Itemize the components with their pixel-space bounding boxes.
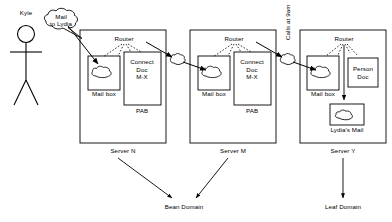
server-y-label: Server Y: [331, 147, 356, 154]
server-m-pab-label: PAB: [246, 107, 258, 114]
server-n-doc-line2: Doc: [136, 66, 147, 73]
transit-cloud-m-to-y: [280, 54, 295, 65]
server-n-doc-line1: Connect: [130, 58, 154, 65]
arrow-server-n-to-transit-cloud: [146, 42, 172, 57]
bean-domain-label: Bean Domain: [165, 203, 204, 210]
server-n-router-fan: [103, 44, 141, 57]
server-y-mailbox-cloud: [311, 66, 330, 77]
server-y-mailbox-label: Mail box: [311, 90, 335, 97]
server-m-mailbox-cloud: [202, 66, 221, 77]
server-y-router-fan: [326, 44, 358, 56]
server-n-pab-label: PAB: [136, 107, 148, 114]
server-n-label: Server N: [110, 147, 135, 154]
server-y-person-doc-line2: Doc: [357, 73, 368, 80]
server-m-router-fan: [213, 44, 251, 57]
server-n-doc-line3: M-X: [136, 73, 148, 80]
server-y-lydias-mail-label: Lydia's Mail: [330, 126, 363, 133]
arrow-transit-cloud-to-server-m: [183, 62, 206, 70]
transit-cloud-n-to-m: [170, 54, 185, 65]
server-y-person-doc-line1: Person: [353, 65, 373, 72]
arrow-transit-cloud-to-server-y: [293, 62, 316, 70]
leaf-domain-label: Leaf Domain: [325, 203, 361, 210]
arrow-server-m-to-transit-cloud: [256, 42, 282, 57]
arrow-server-m-to-bean-domain: [196, 158, 228, 198]
server-m-mailbox-label: Mail box: [202, 90, 226, 97]
speech-bubble-line2: to Lydia: [50, 20, 72, 27]
arrow-server-n-to-bean-domain: [118, 158, 172, 198]
diagram-canvas: [0, 0, 392, 222]
server-m-doc-line1: Connect: [240, 58, 264, 65]
server-n-mailbox-label: Mail box: [92, 90, 116, 97]
actor-label: Kyle: [20, 9, 32, 16]
calls-at-9am-label: Calls at 9am: [284, 4, 291, 40]
server-y-router-label: Router: [334, 35, 353, 42]
server-n-router-label: Router: [114, 35, 133, 42]
server-m-doc-line2: Doc: [246, 66, 257, 73]
stick-figure-icon: [10, 26, 42, 106]
server-n-group: [80, 30, 166, 143]
server-m-doc-line3: M-X: [246, 73, 258, 80]
server-y-lydias-mail-cloud: [335, 110, 352, 120]
server-n-mailbox-cloud: [92, 66, 111, 77]
server-m-group: [190, 30, 276, 143]
server-m-router-label: Router: [224, 35, 243, 42]
arrow-bubble-to-server-n-mailbox: [68, 26, 98, 64]
server-m-label: Server M: [220, 147, 246, 154]
